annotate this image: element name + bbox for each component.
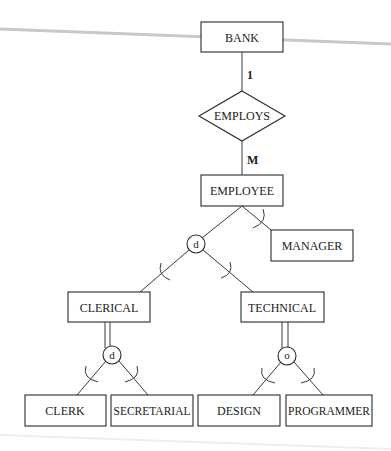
entity-secretarial[interactable]: SECRETARIAL (111, 395, 193, 426)
subset-arc-programmer (301, 368, 314, 383)
specialization-employee-disjoint[interactable]: d (187, 235, 205, 253)
scan-artifact-line-bottom (0, 435, 391, 449)
entity-programmer[interactable]: PROGRAMMER (286, 395, 372, 426)
subset-arc-manager (253, 209, 264, 228)
entity-bank-label: BANK (225, 31, 259, 45)
specialization-technical-overlap-label: o (284, 349, 290, 361)
relationship-employs[interactable]: EMPLOYS (199, 91, 285, 141)
entity-bank[interactable]: BANK (201, 22, 283, 52)
entity-clerk[interactable]: CLERK (25, 395, 106, 426)
d-clerk-connector (77, 361, 106, 395)
employee-d-connector (202, 206, 242, 238)
d-clerical-connector (140, 250, 189, 292)
cardinality-bank: 1 (247, 68, 253, 82)
subset-arc-secretarial (125, 366, 138, 382)
d-technical-connector (203, 250, 253, 292)
subset-arc-clerk (85, 366, 98, 382)
subset-arc-design (262, 368, 275, 383)
entity-technical-label: TECHNICAL (248, 301, 316, 315)
entity-clerk-label: CLERK (45, 404, 85, 418)
entity-employee[interactable]: EMPLOYEE (201, 175, 283, 206)
er-diagram: 1 M BANK EMPLOYS EMPLOYEE MANAGER d CLER… (0, 0, 391, 451)
o-design-connector (253, 362, 281, 395)
entity-design[interactable]: DESIGN (198, 395, 280, 426)
o-programmer-connector (294, 362, 323, 395)
entity-secretarial-label: SECRETARIAL (113, 405, 190, 417)
entity-clerical-label: CLERICAL (80, 301, 139, 315)
specialization-technical-overlap[interactable]: o (278, 347, 296, 365)
specialization-clerical-disjoint[interactable]: d (103, 346, 121, 364)
entity-design-label: DESIGN (217, 404, 261, 418)
subset-arc-clerical (160, 263, 170, 280)
specialization-clerical-disjoint-label: d (109, 349, 115, 361)
scan-artifact-line-top (0, 29, 391, 44)
entity-manager-label: MANAGER (282, 239, 343, 253)
entity-programmer-label: PROGRAMMER (288, 405, 370, 417)
entity-employee-label: EMPLOYEE (210, 184, 274, 198)
subset-arc-technical (221, 262, 231, 278)
cardinality-employee: M (247, 153, 258, 167)
entity-manager[interactable]: MANAGER (271, 230, 353, 261)
relationship-employs-label: EMPLOYS (214, 109, 270, 123)
entity-clerical[interactable]: CLERICAL (68, 292, 150, 322)
specialization-employee-disjoint-label: d (193, 238, 199, 250)
entity-technical[interactable]: TECHNICAL (241, 292, 324, 322)
